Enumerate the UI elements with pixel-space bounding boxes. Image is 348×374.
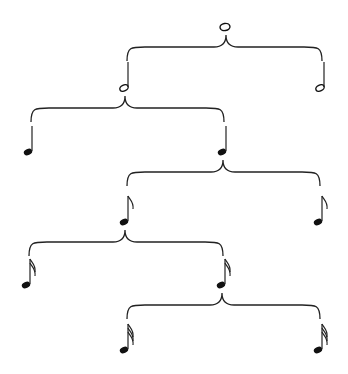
brace-connector <box>127 35 322 61</box>
sixteenth-note-icon: sixteenth note <box>216 259 230 290</box>
eighth-note-icon: eighth note <box>313 196 327 227</box>
half-note-icon: half note <box>119 62 130 93</box>
sixteenth-note-icon: sixteenth note <box>21 259 35 290</box>
half-note-icon: half note <box>315 62 326 93</box>
thirtysecond-note-icon: thirty-second note <box>119 324 133 355</box>
braces-layer <box>29 35 322 319</box>
thirtysecond-note-icon: thirty-second note <box>313 324 327 355</box>
brace-connector <box>127 160 320 186</box>
eighth-note-icon: eighth note <box>119 196 133 227</box>
brace-connector <box>31 96 224 122</box>
whole-note-icon: whole note <box>219 23 230 32</box>
quarter-note-icon: quarter note <box>23 126 34 157</box>
quarter-note-icon: quarter note <box>217 126 228 157</box>
note-tree-diagram: whole notehalf notehalf notequarter note… <box>0 0 348 374</box>
brace-connector <box>127 293 320 319</box>
brace-connector <box>29 230 223 256</box>
